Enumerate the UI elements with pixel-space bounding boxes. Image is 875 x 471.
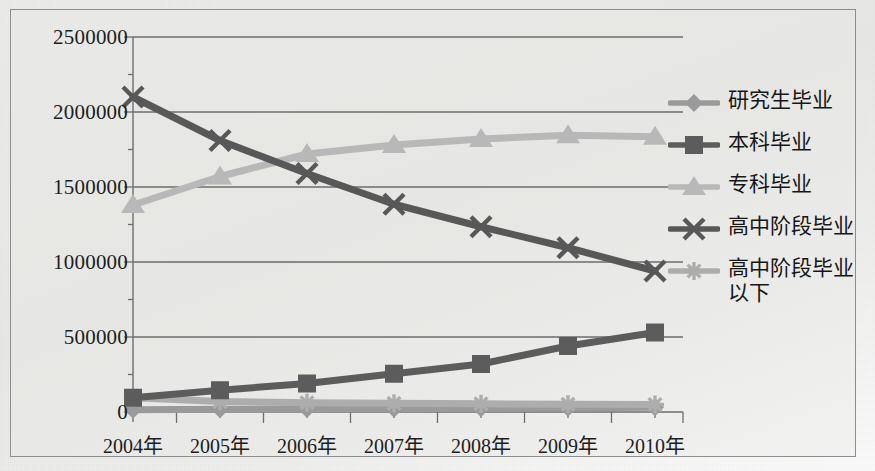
legend-item[interactable]: 本科毕业: [668, 130, 868, 160]
y-axis-tick-label: 0: [117, 400, 128, 425]
legend-marker-icon: [668, 131, 720, 159]
legend-marker-icon: [668, 89, 720, 117]
y-axis-tick-label: 2000000: [53, 100, 128, 125]
y-axis-tick-label: 1500000: [53, 175, 128, 200]
data-point-marker: [685, 262, 703, 280]
x-axis-tick-label: 2007年: [364, 430, 424, 459]
x-axis-tick-label: 2005年: [190, 430, 250, 459]
legend-label: 研究生毕业: [728, 88, 833, 113]
y-axis-tick-label: 1000000: [53, 250, 128, 275]
legend-item[interactable]: 专科毕业: [668, 172, 868, 202]
y-axis-tick-label: 500000: [64, 325, 128, 350]
legend-label: 高中阶段毕业: [728, 214, 854, 239]
y-axis-tick-label: 2500000: [53, 25, 128, 50]
x-axis-tick-label: 2009年: [538, 430, 598, 459]
x-axis-tick-label: 2008年: [451, 430, 511, 459]
data-point-marker: [685, 136, 703, 154]
x-axis-tick-label: 2004年: [103, 430, 163, 459]
legend-marker-icon: [668, 215, 720, 243]
legend-item[interactable]: 高中阶段毕业: [668, 214, 868, 244]
chart-screenshot: 05000001000000150000020000002500000 研究生毕…: [0, 0, 875, 471]
legend-marker-icon: [668, 173, 720, 201]
legend-item[interactable]: 研究生毕业: [668, 88, 868, 118]
chart-legend: 研究生毕业本科毕业专科毕业高中阶段毕业高中阶段毕业以下: [668, 88, 868, 318]
x-axis-tick-label: 2010年: [625, 430, 685, 459]
legend-label: 本科毕业: [728, 130, 812, 155]
legend-marker-icon: [668, 257, 720, 285]
x-axis-tick-label: 2006年: [277, 430, 337, 459]
legend-label: 高中阶段毕业以下: [728, 256, 868, 306]
data-point-marker: [685, 94, 703, 112]
y-axis-tick-labels: 05000001000000150000020000002500000: [18, 0, 128, 471]
legend-label: 专科毕业: [728, 172, 812, 197]
legend-item[interactable]: 高中阶段毕业以下: [668, 256, 868, 306]
